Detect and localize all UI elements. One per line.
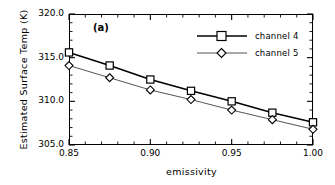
legend-marker-square-icon	[196, 30, 248, 42]
legend-entry-channel-5: channel 5	[196, 44, 299, 61]
x-tick-label: 0.95	[202, 148, 262, 158]
legend-entry-channel-4: channel 4	[196, 27, 299, 44]
y-tick-label: 320.0	[0, 8, 64, 18]
x-tick-label: 1.00	[283, 148, 335, 158]
legend: channel 4 channel 5	[196, 27, 299, 61]
figure-chart-a: Estimated Surface Temp (K) emissivity (a…	[0, 0, 335, 185]
legend-marker-diamond-icon	[196, 47, 248, 59]
x-tick-label: 0.85	[39, 148, 99, 158]
y-tick-label: 310.0	[0, 95, 64, 105]
legend-label-channel-4: channel 4	[255, 31, 299, 41]
x-tick-label: 0.90	[120, 148, 180, 158]
y-tick-label: 315.0	[0, 52, 64, 62]
legend-label-channel-5: channel 5	[255, 48, 299, 58]
